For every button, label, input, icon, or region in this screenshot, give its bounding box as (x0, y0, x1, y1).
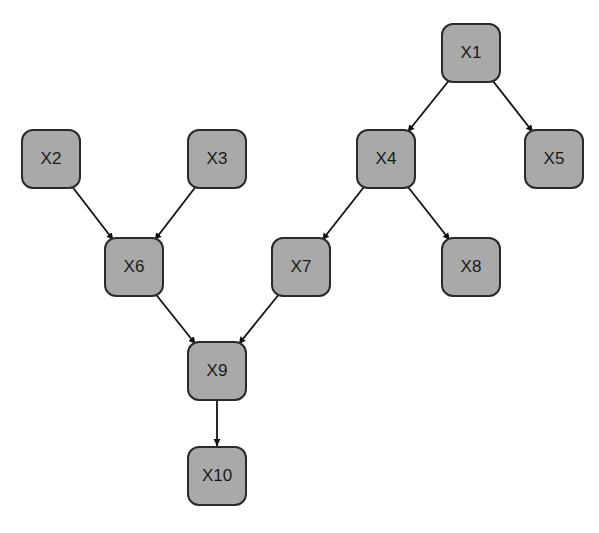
node-label: X10 (202, 466, 232, 486)
node-x1: X1 (441, 23, 501, 83)
node-label: X8 (461, 257, 482, 277)
node-x10: X10 (187, 446, 247, 506)
node-x4: X4 (356, 129, 416, 189)
edge-x1-to-x5 (492, 80, 533, 132)
node-x5: X5 (524, 129, 584, 189)
node-label: X1 (461, 43, 482, 63)
node-x6: X6 (104, 237, 164, 297)
edge-x4-to-x7 (322, 186, 365, 240)
node-label: X4 (376, 149, 397, 169)
edge-x1-to-x4 (408, 80, 450, 132)
edge-x2-to-x6 (72, 186, 114, 240)
edge-x7-to-x9 (239, 294, 279, 344)
node-label: X9 (207, 361, 228, 381)
node-x8: X8 (441, 237, 501, 297)
edge-x6-to-x9 (156, 294, 196, 344)
node-x2: X2 (21, 129, 81, 189)
edge-x4-to-x8 (407, 186, 450, 240)
edge-x3-to-x6 (155, 186, 197, 240)
node-x7: X7 (271, 237, 331, 297)
node-label: X5 (544, 149, 565, 169)
node-label: X3 (207, 149, 228, 169)
node-x3: X3 (187, 129, 247, 189)
node-label: X6 (124, 257, 145, 277)
node-label: X2 (41, 149, 62, 169)
node-x9: X9 (187, 341, 247, 401)
node-label: X7 (291, 257, 312, 277)
